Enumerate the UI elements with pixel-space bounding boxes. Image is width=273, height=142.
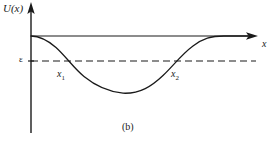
y-axis-label: U(x): [3, 3, 23, 14]
x1-subscript: 1: [61, 74, 65, 82]
figure-canvas: [0, 0, 273, 142]
x2-subscript: 2: [175, 74, 179, 82]
potential-well-figure: U(x) x ε x1 x2 (b): [0, 0, 273, 142]
potential-curve: [31, 36, 248, 93]
x2-turning-point-label: x2: [171, 69, 179, 82]
x1-turning-point-label: x1: [57, 69, 65, 82]
epsilon-level-label: ε: [19, 55, 23, 64]
figure-caption: (b): [122, 122, 134, 132]
x-axis-label: x: [262, 39, 266, 49]
